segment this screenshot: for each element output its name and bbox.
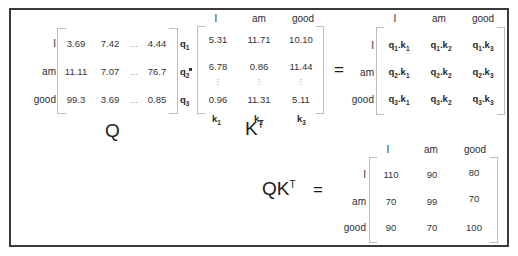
q-cell-2-1: 3.69 bbox=[94, 88, 126, 110]
result-row-label-0: I bbox=[332, 163, 371, 185]
result-cell-1-0: 70 bbox=[371, 190, 411, 212]
qk-cell-1-0: q2.k1 bbox=[378, 61, 420, 83]
kt-cell-3-1: 11.31 bbox=[238, 89, 280, 109]
product-equals-sign: = bbox=[313, 180, 323, 200]
q-cell-0-1: 7.42 bbox=[94, 32, 126, 54]
qk-cell-2-1: q3.k2 bbox=[420, 88, 462, 110]
kt-cell-0-1: 11.71 bbox=[238, 29, 280, 49]
kt-matrix-label: KT bbox=[245, 118, 264, 140]
kt-vector-label-2: k3 bbox=[297, 113, 306, 126]
kt-vector-label-0: k1 bbox=[212, 113, 221, 126]
q-cell-1-1: 7.07 bbox=[94, 60, 126, 82]
qk-cell-0-1: q1.k2 bbox=[420, 34, 462, 56]
result-cell-0-0: 110 bbox=[371, 163, 411, 185]
qk-cell-1-2: q2.k3 bbox=[462, 61, 504, 83]
result-cell-2-1: 70 bbox=[412, 216, 452, 238]
kt-cell-1-0: 6.78 bbox=[198, 56, 238, 76]
kt-col-label-2: good bbox=[281, 10, 325, 24]
kt-cell-1-1: 0.86 bbox=[238, 56, 280, 76]
q-vector-label-0: q1 bbox=[180, 38, 189, 51]
result-cell-1-1: 99 bbox=[412, 190, 452, 212]
qk-cell-0-0: q1.k1 bbox=[378, 34, 420, 56]
q-row-label-2: good bbox=[8, 88, 61, 110]
kt-cell-2-1: ⋮ bbox=[238, 74, 280, 88]
kt-col-label-0: I bbox=[196, 10, 236, 24]
qk-col-label-1: am bbox=[418, 10, 460, 24]
qk-col-label-2: good bbox=[461, 10, 505, 24]
q-cell-0-2: ... bbox=[124, 32, 144, 54]
q-cell-1-3: 76.7 bbox=[142, 60, 172, 82]
product-label: QKT bbox=[262, 178, 296, 200]
dot-operator-icon bbox=[189, 68, 192, 71]
kt-cell-0-2: 10.10 bbox=[281, 29, 321, 49]
result-row-label-1: am bbox=[332, 190, 371, 212]
qk-cell-1-1: q2.k2 bbox=[420, 61, 462, 83]
kt-cell-3-0: 0.96 bbox=[198, 89, 238, 109]
kt-col-label-1: am bbox=[238, 10, 280, 24]
kt-cell-1-2: 11.44 bbox=[281, 56, 321, 76]
kt-cell-2-0: ⋮ bbox=[198, 74, 238, 88]
result-cell-0-1: 90 bbox=[412, 163, 452, 185]
result-col-label-0: I bbox=[367, 141, 409, 155]
qk-row-label-2: good bbox=[340, 88, 379, 110]
kt-cell-0-0: 5.31 bbox=[198, 29, 238, 49]
result-cell-2-2: 100 bbox=[453, 216, 495, 238]
qk-cell-2-2: q3.k3 bbox=[462, 88, 504, 110]
qk-cell-2-0: q3.k1 bbox=[378, 88, 420, 110]
q-cell-0-0: 3.69 bbox=[58, 32, 94, 54]
result-col-label-2: good bbox=[452, 141, 498, 155]
q-cell-1-2: ... bbox=[124, 60, 144, 82]
q-matrix-label: Q bbox=[105, 120, 120, 142]
result-cell-2-0: 90 bbox=[371, 216, 411, 238]
result-row-label-2: good bbox=[332, 216, 371, 238]
q-cell-2-3: 0.85 bbox=[142, 88, 172, 110]
qk-cell-0-2: q1.k3 bbox=[462, 34, 504, 56]
figure-canvas: I am good 3.69 7.42 ... 4.44 11.11 7.07 … bbox=[0, 0, 518, 256]
q-vector-label-2: q3 bbox=[180, 94, 189, 107]
q-cell-1-0: 11.11 bbox=[58, 60, 94, 82]
q-row-label-0: I bbox=[8, 32, 61, 54]
qk-col-label-0: I bbox=[374, 10, 416, 24]
result-col-label-1: am bbox=[410, 141, 452, 155]
qk-row-label-0: I bbox=[340, 34, 379, 56]
qk-row-label-1: am bbox=[340, 61, 379, 83]
result-cell-1-2: 70 bbox=[453, 187, 495, 209]
q-cell-2-0: 99.3 bbox=[58, 88, 94, 110]
q-cell-0-3: 4.44 bbox=[142, 32, 172, 54]
kt-cell-2-2: ⋮ bbox=[281, 74, 321, 88]
kt-cell-3-2: 5.11 bbox=[281, 89, 321, 109]
q-cell-2-2: ... bbox=[124, 88, 144, 110]
result-cell-0-2: 80 bbox=[453, 161, 495, 183]
q-row-label-1: am bbox=[8, 60, 61, 82]
